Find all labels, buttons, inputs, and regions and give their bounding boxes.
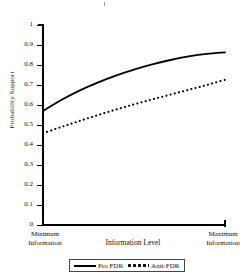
series-pro-fdr-line — [43, 52, 225, 111]
legend: Pro FDR Anti-FDR — [69, 259, 185, 272]
legend-item-anti-fdr: Anti-FDR — [123, 262, 179, 270]
legend-swatch-solid-icon — [74, 265, 96, 267]
legend-swatch-dotted-icon — [127, 264, 149, 267]
legend-item-pro-fdr: Pro FDR — [74, 262, 123, 270]
legend-label-anti-fdr: Anti-FDR — [151, 262, 179, 270]
legend-label-pro-fdr: Pro FDR — [98, 262, 123, 270]
chart-figure: 10.90.80.70.60.50.40.30.20.10 Probabilit… — [0, 0, 251, 279]
series-curves — [0, 0, 251, 279]
series-anti-fdr-line — [43, 80, 225, 133]
